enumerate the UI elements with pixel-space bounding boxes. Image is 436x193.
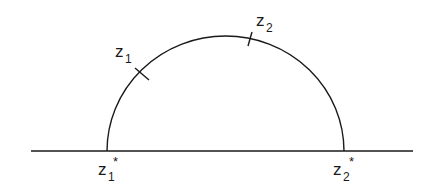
svg-text:2: 2 [266,21,273,35]
label-z1: z 1 [115,42,132,66]
diagram-canvas: z 1 z 2 z 1 * z 2 * [0,0,436,193]
semicircle-arc [107,36,344,151]
label-z1-star: z 1 * [98,154,118,184]
svg-text:z: z [333,160,342,179]
svg-text:*: * [349,154,354,169]
svg-text:1: 1 [125,52,132,66]
svg-text:*: * [113,154,118,169]
svg-text:1: 1 [108,170,115,184]
label-z2: z 2 [256,11,273,35]
svg-text:z: z [115,42,124,61]
label-z2-star: z 2 * [333,154,354,184]
svg-text:z: z [256,11,265,30]
svg-text:2: 2 [343,170,350,184]
svg-text:z: z [98,160,107,179]
